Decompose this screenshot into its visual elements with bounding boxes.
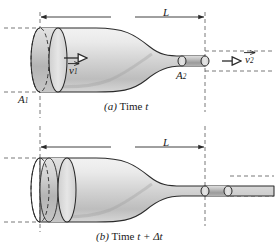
panel-a-caption-text: Time bbox=[120, 100, 143, 112]
outlet-face-ellipse-b bbox=[224, 186, 232, 196]
area-outlet-symbol-a: A bbox=[176, 69, 183, 81]
velocity-inlet-vector-bar-a bbox=[68, 61, 77, 66]
area-inlet-label-a: A1 bbox=[18, 94, 28, 105]
panel-b-caption-variable: t + Δt bbox=[137, 230, 163, 242]
area-inlet-subscript-a: 1 bbox=[25, 97, 29, 105]
velocity-outlet-label-a: v2 bbox=[245, 54, 254, 65]
panel-b-caption-text: Time bbox=[112, 230, 135, 242]
outlet-area-ellipse-a bbox=[178, 56, 186, 66]
panel-b-caption: (b) Time t + Δt bbox=[96, 231, 163, 242]
panel-a-caption-variable: t bbox=[145, 100, 148, 112]
outlet-face-ellipse-a bbox=[201, 56, 209, 66]
panel-a-caption-prefix: (a) bbox=[104, 100, 117, 112]
area-inlet-symbol-a: A bbox=[18, 93, 25, 105]
dimension-label-L-a: L bbox=[163, 7, 169, 18]
panel-b bbox=[4, 126, 274, 232]
panel-a-caption: (a) Time t bbox=[104, 101, 148, 112]
velocity-inlet-label-a: v1 bbox=[69, 65, 78, 76]
panel-b-caption-prefix: (b) bbox=[96, 230, 109, 242]
velocity-inlet-subscript-a: 1 bbox=[74, 68, 78, 76]
area-outlet-label-a: A2 bbox=[176, 70, 186, 81]
inlet-face-ellipse-a bbox=[49, 28, 67, 92]
velocity-outlet-subscript-a: 2 bbox=[250, 57, 254, 65]
dimension-label-L-b: L bbox=[163, 137, 169, 148]
outlet-area-ellipse-b bbox=[201, 186, 209, 196]
velocity-outlet-vector-bar-a bbox=[244, 50, 253, 55]
inlet-rim-b bbox=[31, 158, 40, 222]
area-outlet-subscript-a: 2 bbox=[183, 73, 187, 81]
inlet-face-ellipse-b bbox=[58, 158, 76, 222]
